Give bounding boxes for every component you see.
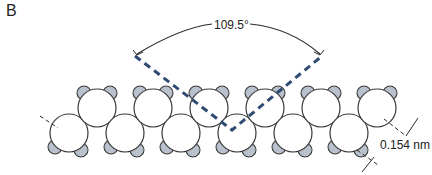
chain-diagram: 109.5° 0.154 nm	[0, 0, 432, 175]
dimension-arrow-lower	[362, 157, 374, 172]
angle-arc-left	[137, 24, 212, 54]
dimension-arrow-upper	[406, 118, 418, 136]
angle-arc-right	[250, 24, 320, 54]
bond-length-label: 0.154 nm	[380, 138, 430, 152]
carbon-atoms	[50, 89, 396, 152]
carbon-atom	[358, 89, 396, 127]
angle-label: 109.5°	[214, 18, 249, 32]
